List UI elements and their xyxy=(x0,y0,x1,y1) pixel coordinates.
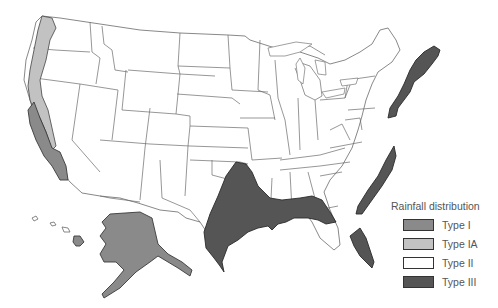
legend-item-type-ii: Type II xyxy=(403,256,474,270)
swatch-type-ii xyxy=(403,257,434,269)
type-iii-florida xyxy=(350,228,374,268)
hawaii xyxy=(32,216,84,246)
legend-label: Type II xyxy=(442,257,474,269)
legend-item-type-i: Type I xyxy=(403,218,471,232)
type-i-alaska xyxy=(100,212,192,298)
legend-label: Type I xyxy=(442,219,471,231)
swatch-type-iii xyxy=(403,276,434,288)
legend-item-type-ia: Type IA xyxy=(403,237,478,251)
type-iii-atlantic-coast xyxy=(356,146,396,214)
swatch-type-i xyxy=(403,219,434,231)
swatch-type-ia xyxy=(403,238,434,250)
legend-label: Type IA xyxy=(442,238,478,250)
legend-title: Rainfall distribution xyxy=(391,200,480,212)
legend-label: Type III xyxy=(442,276,476,288)
legend-item-type-iii: Type III xyxy=(403,275,476,289)
